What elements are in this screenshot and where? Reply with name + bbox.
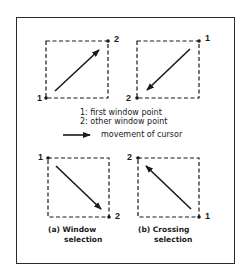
legend-line-other-point: 2: other window point: [80, 117, 167, 126]
panel-bottom-left: 1 2 (a) Window selection: [38, 152, 120, 244]
cursor-arrow-icon: [146, 166, 191, 209]
panel-top-left: 1 2: [37, 34, 119, 103]
window-selection-diagram: 1 2 1 2 1: first window point 2: other w…: [0, 0, 245, 277]
legend-line-first-point: 1: first window point: [80, 108, 162, 117]
point-label-start: 1: [205, 33, 210, 43]
point-marker: [135, 96, 139, 100]
point-label-end: 2: [114, 34, 119, 44]
panel-bottom-right: 1 2 (b) Crossing selection: [127, 152, 210, 244]
point-label-start: 1: [37, 93, 42, 103]
point-label-start: 1: [205, 211, 210, 221]
caption-crossing-line2: selection: [154, 235, 192, 244]
point-marker: [46, 156, 50, 160]
legend: 1: first window point 2: other window po…: [63, 108, 183, 139]
caption-window-line1: (a) Window: [48, 225, 96, 234]
point-label-end: 2: [115, 211, 120, 221]
point-label-end: 2: [126, 93, 131, 103]
cursor-arrow-icon: [55, 50, 99, 91]
point-label-end: 2: [127, 152, 132, 162]
point-marker: [197, 215, 201, 219]
legend-arrow-text: movement of cursor: [101, 130, 183, 139]
caption-crossing-line1: (b) Crossing: [138, 225, 189, 234]
caption-window-line2: selection: [64, 235, 102, 244]
cursor-arrow-icon: [56, 166, 101, 209]
panel-top-right: 1 2: [126, 33, 210, 103]
point-marker: [106, 39, 110, 43]
point-marker: [136, 156, 140, 160]
point-marker: [197, 39, 201, 43]
cursor-arrow-icon: [147, 49, 190, 90]
point-marker: [44, 96, 48, 100]
point-label-start: 1: [38, 152, 43, 162]
point-marker: [107, 215, 111, 219]
